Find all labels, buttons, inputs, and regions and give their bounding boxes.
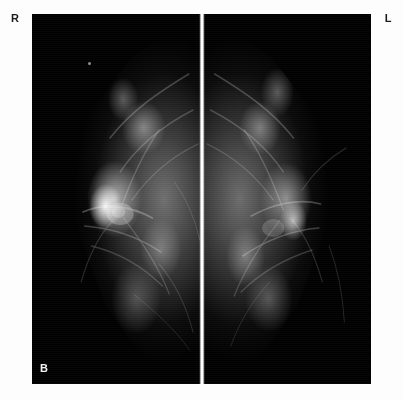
breast-panel-left [202, 14, 372, 384]
laterality-marker-right: R [11, 13, 19, 24]
center-divider-line [199, 14, 204, 384]
laterality-marker-left: L [385, 13, 392, 24]
bright-speck-artifact [88, 62, 91, 65]
trabecular-texture-right [32, 14, 202, 384]
trabecular-texture-left [202, 14, 372, 384]
position-marker-bottom: B [40, 363, 48, 374]
breast-panel-right [32, 14, 202, 384]
radiograph-page: R L [0, 0, 403, 400]
radiograph-film: B [32, 14, 371, 384]
